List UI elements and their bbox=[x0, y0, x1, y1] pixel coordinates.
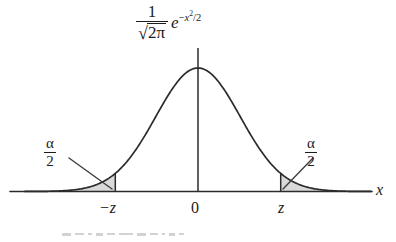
caption-glyph-fragment bbox=[169, 233, 175, 236]
formula-numerator: 1 bbox=[136, 3, 168, 22]
caption-glyph-fragment bbox=[179, 233, 184, 235]
tick-label-negative-z: −z bbox=[99, 200, 116, 216]
caption-glyph-fragment bbox=[162, 233, 165, 235]
left-alpha-leader-line bbox=[69, 158, 112, 189]
exp-base: e bbox=[171, 13, 179, 32]
exponent-group: −x2/2 bbox=[179, 12, 202, 23]
caption-glyph-fragment bbox=[119, 233, 133, 235]
left-alpha-numerator: α bbox=[44, 136, 56, 153]
caption-glyph-fragment bbox=[96, 233, 103, 236]
formula-denominator: √ 2π bbox=[136, 22, 168, 41]
right-alpha-over-two-label: α 2 bbox=[305, 136, 317, 169]
exponential-term: e−x2/2 bbox=[171, 14, 201, 31]
left-alpha-fraction: α 2 bbox=[44, 136, 56, 169]
tick-label-positive-z: z bbox=[278, 200, 284, 216]
left-alpha-over-two-label: α 2 bbox=[44, 136, 56, 169]
caption-glyph-fragment bbox=[137, 233, 146, 236]
one-over-sqrt-two-pi-fraction: 1 √ 2π bbox=[136, 3, 168, 41]
normal-distribution-figure: 1 √ 2π e−x2/2 α 2 α 2 −z 0 z x bbox=[0, 0, 396, 242]
left-alpha-denominator: 2 bbox=[44, 153, 56, 169]
right-alpha-numerator: α bbox=[305, 136, 317, 153]
caption-glyph-fragment bbox=[150, 233, 158, 235]
cropped-caption-remnant bbox=[62, 233, 237, 240]
square-root-group: √ 2π bbox=[138, 23, 166, 41]
caption-glyph-fragment bbox=[75, 233, 84, 235]
tick-label-zero: 0 bbox=[191, 200, 199, 216]
right-alpha-fraction: α 2 bbox=[305, 136, 317, 169]
right-alpha-denominator: 2 bbox=[305, 153, 317, 169]
caption-glyph-fragment bbox=[88, 233, 92, 235]
exponent-divisor: /2 bbox=[193, 12, 201, 23]
radical-icon: √ bbox=[138, 24, 148, 42]
caption-glyph-fragment bbox=[107, 233, 115, 235]
radicand-two-pi: 2π bbox=[147, 23, 166, 41]
x-axis-label: x bbox=[376, 182, 383, 198]
caption-glyph-fragment bbox=[62, 233, 71, 236]
density-formula: 1 √ 2π e−x2/2 bbox=[136, 3, 201, 41]
